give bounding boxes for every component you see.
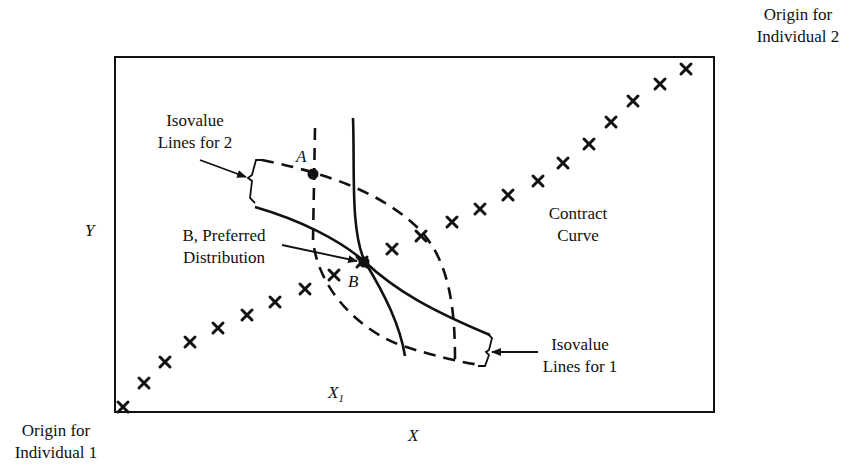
contract-line2: Curve [530, 225, 626, 247]
preferred-line2: Distribution [164, 247, 284, 269]
arrow-isovalue-2 [200, 160, 246, 177]
point-b-label: B [348, 271, 358, 293]
brace-isovalue-2 [248, 160, 262, 203]
x1-label: X1 [328, 382, 344, 409]
origin-2-line1: Origin for [748, 4, 848, 26]
preferred-distribution-label: B, Preferred Distribution [164, 225, 284, 269]
origin-2-line2: Individual 2 [748, 26, 848, 48]
contract-line1: Contract [530, 203, 626, 225]
origin-individual-2-label: Origin for Individual 2 [748, 4, 848, 48]
point-a-dot [308, 169, 319, 180]
contract-curve-label: Contract Curve [530, 203, 626, 247]
x1-main: X [328, 383, 338, 402]
x1-subscript: 1 [338, 392, 344, 404]
origin-1-line2: Individual 1 [0, 442, 112, 464]
origin-individual-1-label: Origin for Individual 1 [0, 420, 112, 464]
isovalue-2-line2: Lines for 2 [145, 132, 245, 154]
isovalue-1-line2: Lines for 1 [530, 356, 630, 378]
isovalue-lines-1-label: Isovalue Lines for 1 [530, 334, 630, 378]
isovalue-1-line1: Isovalue [530, 334, 630, 356]
brace-isovalue-1 [478, 334, 492, 366]
y-axis-label: Y [85, 220, 94, 242]
isovalue-lines-2-label: Isovalue Lines for 2 [145, 110, 245, 154]
isovalue-1-solid-curve [353, 118, 405, 356]
edgeworth-box-diagram [0, 0, 855, 465]
isovalue-2-line1: Isovalue [145, 110, 245, 132]
preferred-line1: B, Preferred [164, 225, 284, 247]
x-axis-label: X [408, 425, 418, 447]
point-b-dot [359, 257, 370, 268]
point-a-label: A [296, 146, 306, 168]
origin-1-line1: Origin for [0, 420, 112, 442]
